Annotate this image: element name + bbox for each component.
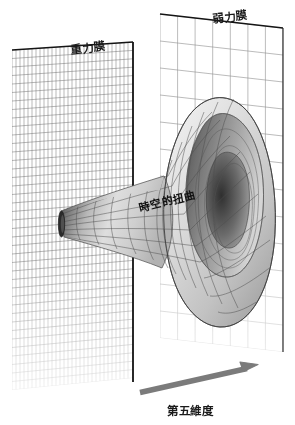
fifth-dimension-arrow bbox=[140, 362, 258, 393]
gravity-brane-label: 重力膜 bbox=[70, 39, 107, 57]
brane-diagram-figure: 重力膜 弱力膜 時空的扭曲 第五維度 bbox=[0, 0, 295, 425]
fifth-dimension-label: 第五維度 bbox=[167, 404, 214, 418]
funnel-throat-highlight bbox=[61, 215, 64, 233]
arrow-shaft bbox=[140, 369, 247, 393]
spacetime-funnel bbox=[58, 98, 275, 327]
diagram-canvas: 重力膜 弱力膜 時空的扭曲 第五維度 bbox=[0, 0, 295, 425]
funnel-tube bbox=[61, 176, 173, 268]
arrow-head-icon bbox=[240, 362, 258, 372]
